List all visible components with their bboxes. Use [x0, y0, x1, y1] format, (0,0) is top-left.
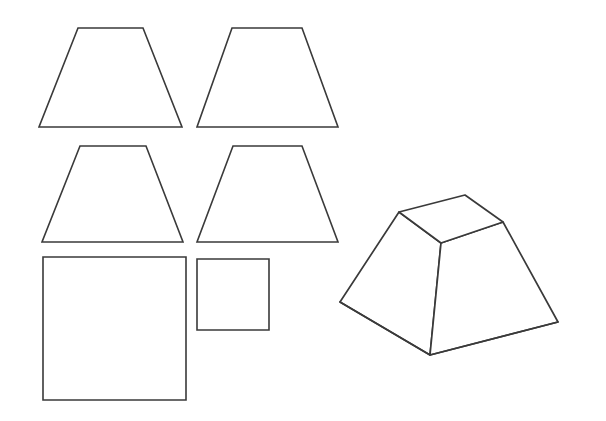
frustum-left-face — [340, 212, 441, 355]
trapezoid-top-right — [197, 28, 338, 127]
figure-svg — [0, 0, 606, 421]
trapezoid-middle-left — [42, 146, 183, 242]
square-small — [197, 259, 269, 330]
trapezoid-top-left — [39, 28, 182, 127]
trapezoid-middle-right — [197, 146, 338, 242]
frustum-right-face — [430, 222, 558, 355]
square-large — [43, 257, 186, 400]
square-frustum-3d — [340, 195, 558, 355]
diagram-canvas — [0, 0, 606, 421]
